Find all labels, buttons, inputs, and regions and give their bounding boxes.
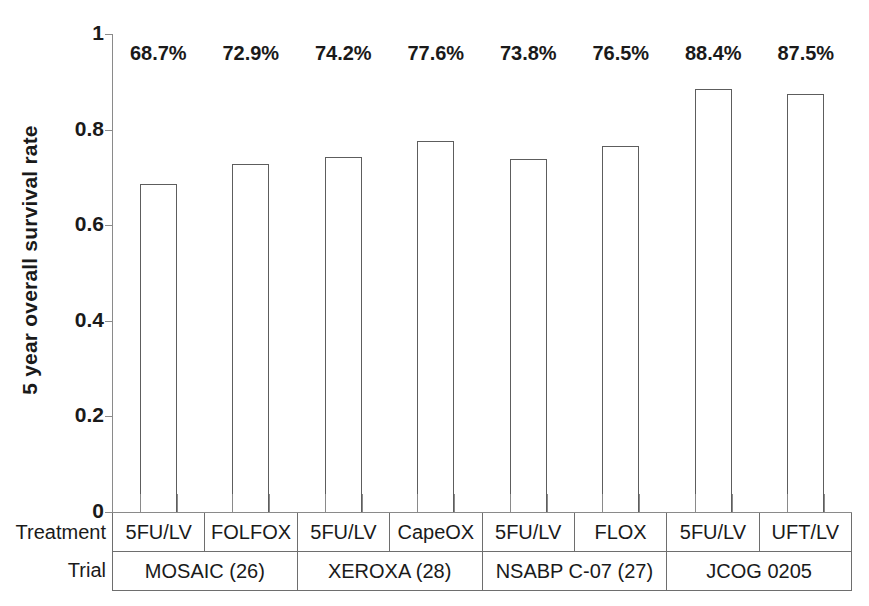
bar (602, 146, 639, 512)
x-axis-tick-mark (177, 494, 178, 512)
treatment-cell: UFT/LV (759, 513, 851, 552)
y-axis-tick-mark (105, 512, 112, 513)
bar-value-label: 87.5% (751, 42, 861, 65)
x-axis-tick-mark (140, 494, 141, 512)
category-table-container: 5FU/LVFOLFOX5FU/LVCapeOX5FU/LVFLOX5FU/LV… (112, 513, 852, 589)
x-axis-tick-mark (787, 494, 788, 512)
treatment-cell: FLOX (574, 513, 666, 552)
x-axis-tick-mark (417, 494, 418, 512)
treatment-cell: 5FU/LV (113, 513, 205, 552)
y-axis-tick-label: 0.6 (38, 212, 104, 236)
bar (787, 94, 824, 512)
treatment-cell: 5FU/LV (297, 513, 389, 552)
trial-cell: MOSAIC (26) (113, 552, 298, 591)
x-axis-tick-mark (732, 494, 733, 512)
treatment-cell: 5FU/LV (482, 513, 574, 552)
y-axis-tick-mark (105, 416, 112, 417)
y-axis-tick-label: 1 (38, 21, 104, 45)
plot-area: 68.7%72.9%74.2%77.6%73.8%76.5%88.4%87.5% (112, 34, 852, 512)
bar (510, 159, 547, 512)
bar (417, 141, 454, 512)
x-axis-tick-mark (547, 494, 548, 512)
treatment-cell: 5FU/LV (667, 513, 759, 552)
x-axis-tick-mark (269, 494, 270, 512)
bar (325, 157, 362, 512)
y-axis-tick-mark (105, 225, 112, 226)
trial-cell: NSABP C-07 (27) (482, 552, 667, 591)
table-row-treatment: 5FU/LVFOLFOX5FU/LVCapeOX5FU/LVFLOX5FU/LV… (113, 513, 852, 552)
x-axis-tick-mark (362, 494, 363, 512)
row-header-treatment: Treatment (0, 513, 106, 551)
row-header-trial: Trial (0, 551, 106, 589)
y-axis-title: 5 year overall survival rate (18, 125, 42, 394)
y-axis-tick-mark (105, 130, 112, 131)
y-axis-tick-label: 0.8 (38, 117, 104, 141)
y-axis-tick-label: 0.4 (38, 308, 104, 332)
x-axis-tick-mark (454, 494, 455, 512)
x-axis-tick-mark (232, 494, 233, 512)
y-axis-line (112, 34, 113, 512)
y-axis-tick-mark (105, 321, 112, 322)
treatment-cell: FOLFOX (205, 513, 297, 552)
y-axis-tick-label: 0.2 (38, 403, 104, 427)
treatment-cell: CapeOX (390, 513, 482, 552)
trial-cell: JCOG 0205 (667, 552, 852, 591)
bar (232, 164, 269, 512)
trial-cell: XEROXA (28) (297, 552, 482, 591)
x-axis-tick-mark (639, 494, 640, 512)
table-row-trial: MOSAIC (26)XEROXA (28)NSABP C-07 (27)JCO… (113, 552, 852, 591)
bar-chart-figure: 5 year overall survival rate 10.80.60.40… (0, 0, 869, 606)
x-axis-tick-mark (695, 494, 696, 512)
x-axis-tick-mark (510, 494, 511, 512)
x-axis-tick-mark (325, 494, 326, 512)
y-axis-tick-mark (105, 34, 112, 35)
bar (140, 184, 177, 512)
bar (695, 89, 732, 512)
x-axis-tick-mark (602, 494, 603, 512)
x-axis-tick-mark (824, 494, 825, 512)
category-table: 5FU/LVFOLFOX5FU/LVCapeOX5FU/LVFLOX5FU/LV… (112, 513, 852, 591)
